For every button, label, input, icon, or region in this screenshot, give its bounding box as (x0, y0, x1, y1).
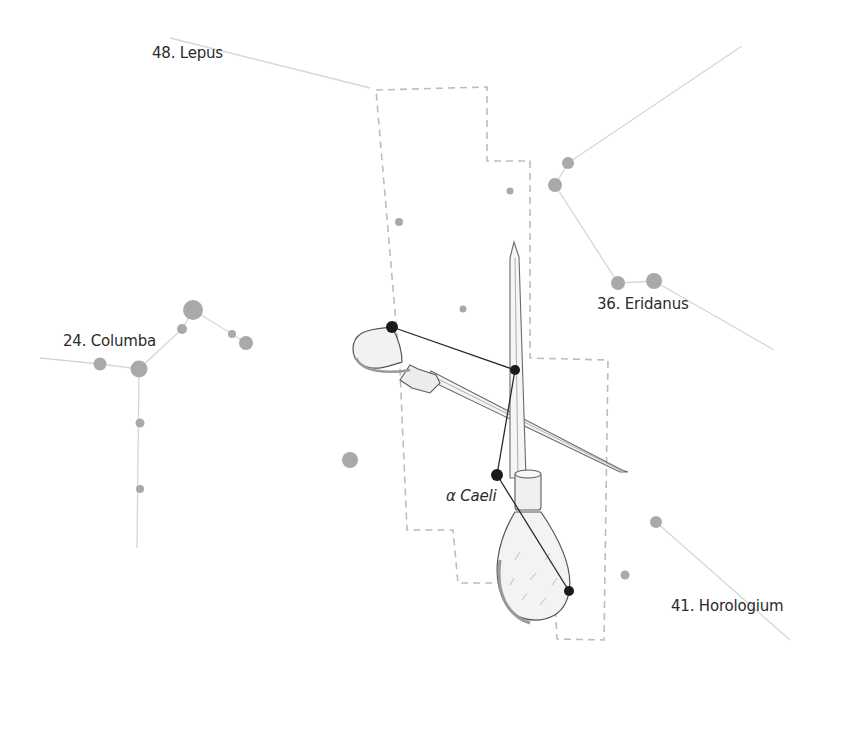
star-icon (136, 419, 145, 428)
star-delta-icon (510, 365, 520, 375)
caelum-boundary (376, 87, 608, 640)
constellation-line (656, 522, 790, 640)
star-icon (611, 276, 625, 290)
star-icon (548, 178, 562, 192)
star-alpha-icon (491, 469, 503, 481)
star-icon (342, 452, 358, 468)
label-lepus: 48. Lepus (152, 44, 223, 62)
star-icon (395, 218, 403, 226)
star-icon (460, 306, 467, 313)
star-icon (507, 188, 514, 195)
chisel-vertical-icon (497, 242, 570, 623)
star-icon (94, 358, 107, 371)
star-beta-icon (564, 586, 574, 596)
label-columba: 24. Columba (63, 332, 156, 350)
label-alpha-caeli: α Caeli (446, 487, 497, 505)
constellation-line (654, 281, 774, 350)
star-icon (177, 324, 187, 334)
constellation-diagram (0, 0, 853, 745)
figure-line (392, 327, 515, 370)
chisel-horizontal-icon (353, 327, 628, 472)
star-icon (562, 157, 574, 169)
star-icon (646, 273, 662, 289)
star-icon (183, 300, 203, 320)
constellation-line (40, 358, 100, 364)
constellation-line (555, 185, 618, 283)
star-icon (228, 330, 236, 338)
star-icon (136, 485, 144, 493)
star-icon (239, 336, 253, 350)
constellation-line (568, 46, 742, 163)
star-icon (621, 571, 630, 580)
star-icon (131, 361, 148, 378)
star-icon (650, 516, 662, 528)
label-horologium: 41. Horologium (671, 597, 783, 615)
star-gamma-icon (386, 321, 398, 333)
label-eridanus: 36. Eridanus (597, 295, 689, 313)
constellation-line (137, 369, 139, 548)
